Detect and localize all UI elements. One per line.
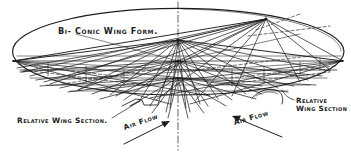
diagram-canvas — [0, 0, 351, 153]
label-relative-wing-section-left: Relative Wing Section. — [17, 117, 108, 125]
label-relative-wing-section-right-line2: Wing Section — [296, 105, 347, 113]
bi-conic-wing-form-figure: Bi- Conic Wing Form. Relative Wing Secti… — [0, 0, 351, 153]
label-relative-wing-section-right: RelativeWing Section — [296, 97, 347, 113]
figure-title: Bi- Conic Wing Form. — [58, 27, 158, 36]
airfoil-profile-right — [252, 89, 283, 104]
